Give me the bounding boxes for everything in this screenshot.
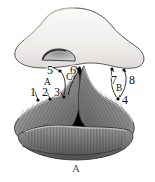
figure-caption: A [72, 163, 80, 174]
leader-dot-3 [62, 95, 65, 98]
label-1: 1 [30, 86, 36, 98]
label-4: 4 [122, 94, 128, 106]
label-3: 3 [54, 86, 60, 98]
anatomical-illustration [0, 0, 155, 182]
label-8: 8 [129, 74, 135, 86]
leader-dot-4 [116, 97, 119, 100]
leader-dot-7 [110, 67, 113, 70]
figure-panel: 1 2 3 4 5 6 7 8 A B C A [0, 0, 155, 182]
label-a: A [44, 78, 51, 88]
label-5: 5 [47, 64, 53, 76]
label-b: B [116, 84, 122, 94]
leader-dot-8 [122, 68, 125, 71]
leader-dot-1 [36, 98, 39, 101]
label-c: C [66, 73, 72, 83]
label-2: 2 [42, 86, 48, 98]
cap-structure [15, 8, 144, 68]
leader-dot-2 [48, 97, 51, 100]
leader-dot-5 [58, 69, 61, 72]
leader-dot-6 [77, 68, 80, 71]
